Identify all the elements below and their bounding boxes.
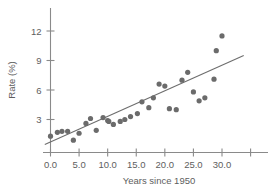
data-point [135, 111, 140, 116]
x-tick-label: 10.0 [98, 159, 117, 170]
data-point [83, 121, 88, 126]
data-point [118, 119, 123, 124]
data-point [197, 98, 202, 103]
y-tick-label: 3 [36, 114, 41, 125]
data-point [214, 48, 219, 53]
data-point [179, 78, 184, 83]
x-tick-label: 25.0 [184, 159, 203, 170]
data-point [191, 89, 196, 94]
data-point [59, 129, 64, 134]
x-axis-title: Years since 1950 [123, 175, 196, 186]
x-tick-label: 0.0 [44, 159, 57, 170]
data-point [48, 134, 53, 139]
data-point [219, 33, 224, 38]
data-point [151, 95, 156, 100]
scatter-plot-figure: 0.05.010.015.020.025.030.0 36912 Years s… [0, 0, 274, 196]
data-point [111, 122, 116, 127]
x-tick-label: 20.0 [156, 159, 175, 170]
data-point [185, 70, 190, 75]
plot-canvas: 0.05.010.015.020.025.030.0 36912 Years s… [0, 0, 274, 196]
data-point [65, 129, 70, 134]
data-point [174, 107, 179, 112]
x-axis-ticks: 0.05.010.015.020.025.030.0 [44, 149, 251, 170]
data-point [76, 131, 81, 136]
data-point [71, 138, 76, 143]
data-point [55, 130, 60, 135]
data-point [94, 128, 99, 133]
data-point [128, 114, 133, 119]
y-tick-label: 12 [31, 26, 42, 37]
regression-line [45, 56, 244, 145]
data-point [146, 105, 151, 110]
y-axis-title: Rate (%) [6, 61, 17, 98]
y-tick-label: 9 [36, 55, 41, 66]
x-tick-label: 15.0 [127, 159, 146, 170]
x-tick-label: 5.0 [72, 159, 85, 170]
data-point [157, 82, 162, 87]
data-point [88, 116, 93, 121]
data-point [139, 99, 144, 104]
y-tick-label: 6 [36, 85, 41, 96]
data-point [162, 83, 167, 88]
data-points-group [48, 33, 225, 142]
data-point [106, 119, 111, 124]
regression-line-group [45, 56, 244, 145]
data-point [122, 117, 127, 122]
data-point [100, 115, 105, 120]
data-point [211, 77, 216, 82]
data-point [202, 95, 207, 100]
x-tick-label: 30.0 [213, 159, 232, 170]
data-point [167, 106, 172, 111]
